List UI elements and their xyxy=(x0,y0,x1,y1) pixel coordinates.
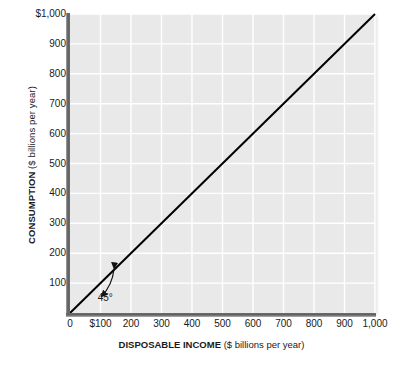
y-tick-label: 700 xyxy=(8,99,66,109)
angle-label: 45° xyxy=(98,292,113,303)
plot-frame xyxy=(70,14,375,313)
x-axis-tick-labels: 0$1002003004005006007008009001,000 xyxy=(70,318,375,332)
y-tick-label: 100 xyxy=(8,278,66,288)
x-axis-title-bold: DISPOSABLE INCOME xyxy=(119,339,221,350)
chart-figure: CONSUMPTION ($ billions per year) 100200… xyxy=(0,0,393,366)
y-axis-line xyxy=(66,13,70,315)
y-tick-label: 800 xyxy=(8,69,66,79)
angle-annotation xyxy=(70,14,375,313)
x-axis-title: DISPOSABLE INCOME ($ billions per year) xyxy=(0,339,393,351)
y-axis-tick-labels: 100200300400500600700800900$1,000 xyxy=(8,14,66,313)
y-tick-label: 400 xyxy=(8,188,66,198)
x-axis-title-light: ($ billions per year) xyxy=(224,339,305,350)
y-tick-label: 900 xyxy=(8,39,66,49)
x-axis-line xyxy=(66,313,376,317)
x-tick-label: 1,000 xyxy=(345,318,393,330)
y-tick-label: 300 xyxy=(8,218,66,228)
y-tick-label: $1,000 xyxy=(8,9,66,19)
y-tick-label: 200 xyxy=(8,248,66,258)
y-tick-label: 600 xyxy=(8,129,66,139)
y-tick-label: 500 xyxy=(8,159,66,169)
